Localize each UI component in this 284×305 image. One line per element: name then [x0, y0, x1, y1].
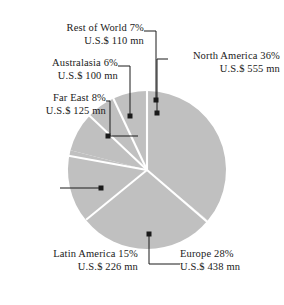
- leader-line-rest-of-world: [144, 31, 156, 100]
- slice-label-north-america-value: U.S.$ 555 mn: [168, 63, 280, 76]
- slice-label-rest-of-world: Rest of World 7% U.S.$ 110 mn: [18, 22, 144, 47]
- leader-dot-rest-of-world: [154, 98, 159, 103]
- leader-dot-latin-america: [99, 186, 104, 191]
- leader-dot-north-america: [155, 111, 160, 116]
- slice-label-latin-america-value: U.S.$ 226 mn: [14, 261, 138, 274]
- leader-dot-far-east: [106, 134, 111, 139]
- slice-label-latin-america: Latin America 15% U.S.$ 226 mn: [14, 248, 138, 273]
- slice-label-north-america-name: North America 36%: [168, 50, 280, 63]
- slice-label-latin-america-name: Latin America 15%: [14, 248, 138, 261]
- pie-chart-figure: Rest of World 7% U.S.$ 110 mn Australasi…: [0, 0, 284, 305]
- slice-label-rest-of-world-value: U.S.$ 110 mn: [18, 35, 144, 48]
- leader-dot-australasia: [128, 114, 133, 119]
- slice-label-australasia-name: Australasia 6%: [10, 57, 118, 70]
- slice-label-far-east: Far East 8% U.S.$ 125 mn: [6, 92, 106, 117]
- slice-label-europe: Europe 28% U.S.$ 438 mn: [180, 248, 280, 273]
- slice-label-north-america: North America 36% U.S.$ 555 mn: [168, 50, 280, 75]
- leader-dot-europe: [147, 232, 152, 237]
- slice-label-europe-value: U.S.$ 438 mn: [180, 261, 280, 274]
- slice-label-far-east-name: Far East 8%: [6, 92, 106, 105]
- slice-label-rest-of-world-name: Rest of World 7%: [18, 22, 144, 35]
- slice-label-australasia-value: U.S.$ 100 mn: [10, 70, 118, 83]
- slice-label-far-east-value: U.S.$ 125 mn: [6, 105, 106, 118]
- slice-label-europe-name: Europe 28%: [180, 248, 280, 261]
- slice-label-australasia: Australasia 6% U.S.$ 100 mn: [10, 57, 118, 82]
